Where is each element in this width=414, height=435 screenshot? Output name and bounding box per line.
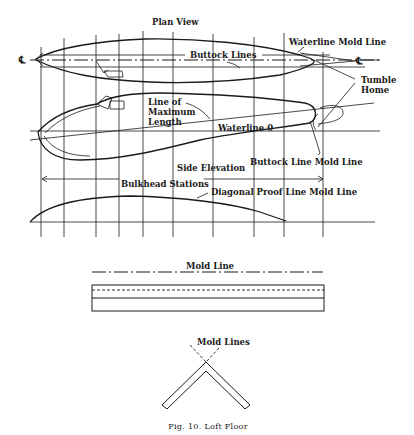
centerline-symbol-right: ℄ bbox=[355, 55, 363, 66]
buttock-lines-label: Buttock Lines bbox=[190, 50, 257, 60]
centerline-symbol-left: ℄ bbox=[18, 54, 26, 65]
line-of-label: Line of bbox=[148, 97, 182, 107]
loft-floor-figure: Plan View Waterline Mold Line Buttock Li… bbox=[0, 0, 414, 435]
figure-caption: Fig. 10. Loft Floor bbox=[168, 422, 248, 431]
mold-lines-angle-detail bbox=[162, 345, 250, 409]
home-label: Home bbox=[361, 85, 390, 95]
plan-view-label: Plan View bbox=[152, 17, 199, 27]
maximum-label: Maximum bbox=[148, 107, 195, 117]
buttock-line-mold-line-label: Buttock Line Mold Line bbox=[250, 157, 363, 167]
tumble-label: Tumble bbox=[361, 75, 397, 85]
diagonal-proof-line-mold-line-label: Diagonal Proof Line Mold Line bbox=[211, 187, 358, 197]
waterline-0-label: Waterline 0 bbox=[217, 123, 273, 133]
waterline-mold-line-label: Waterline Mold Line bbox=[288, 37, 387, 47]
side-elevation-hull bbox=[30, 93, 380, 160]
bulkhead-stations-label: Bulkhead Stations bbox=[121, 179, 209, 189]
mold-lines-label: Mold Lines bbox=[197, 337, 250, 347]
mold-line-flat-detail bbox=[92, 272, 324, 311]
length-label: Length bbox=[148, 117, 182, 127]
side-elevation-label: Side Elevation bbox=[177, 163, 245, 173]
mold-line-label: Mold Line bbox=[186, 261, 235, 271]
